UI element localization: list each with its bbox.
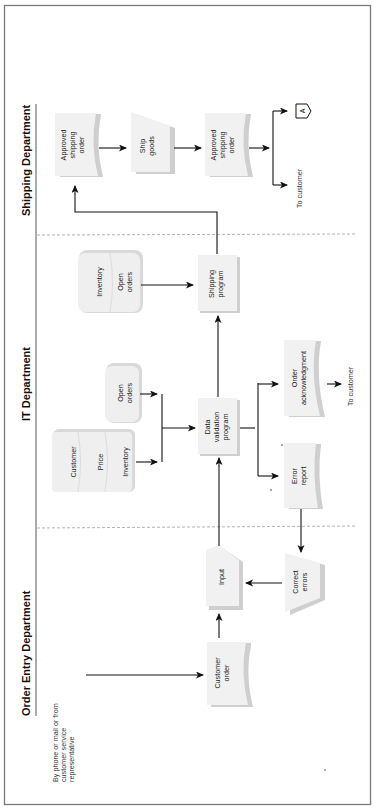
node-error-report: Error report xyxy=(284,443,323,509)
db-inventory-2: Inventory xyxy=(95,267,104,297)
svg-text:order: order xyxy=(77,136,86,153)
svg-text:Approved: Approved xyxy=(59,130,68,161)
svg-text:Customer: Customer xyxy=(213,657,222,689)
svg-text:Error: Error xyxy=(290,467,299,484)
svg-text:Shipping: Shipping xyxy=(207,270,216,298)
db-open-orders-2-line2: orders xyxy=(125,271,134,292)
svg-text:Data: Data xyxy=(203,419,212,434)
node-customer-order: Customer order xyxy=(207,642,253,707)
svg-text:shipping: shipping xyxy=(68,132,77,159)
svg-text:order: order xyxy=(222,664,231,681)
svg-text:orders: orders xyxy=(125,382,134,403)
svg-text:Correct: Correct xyxy=(291,570,300,594)
scan-speck xyxy=(270,489,272,491)
lane-header-shipping: Shipping Department xyxy=(20,104,32,216)
node-approved-shipping-order-1: Approved shipping order xyxy=(55,113,103,177)
svg-text:Open: Open xyxy=(116,384,125,402)
scan-speck xyxy=(281,444,283,446)
svg-text:Input: Input xyxy=(217,569,226,585)
svg-text:shipping: shipping xyxy=(218,132,227,159)
db-inventory: Inventory xyxy=(121,447,130,477)
to-customer-ship-label: To customer xyxy=(295,168,304,208)
svg-text:acknowledgment: acknowledgment xyxy=(299,351,308,405)
svg-text:representative: representative xyxy=(67,736,76,782)
lane-header-order-entry: Order Entry Department xyxy=(20,590,32,716)
svg-text:Approved: Approved xyxy=(209,130,218,161)
node-shipping-program: Shipping program xyxy=(198,255,240,313)
svg-text:Order: Order xyxy=(290,368,299,387)
db-open-orders-2-line1: Open xyxy=(116,273,125,291)
node-approved-shipping-order-2: Approved shipping order xyxy=(205,113,253,177)
node-order-acknowledgment: Order acknowledgment xyxy=(284,340,325,417)
off-page-connector-a: A xyxy=(296,104,311,118)
svg-text:goods: goods xyxy=(147,136,156,156)
scan-speck xyxy=(324,769,326,771)
connector-label: A xyxy=(299,108,306,113)
svg-text:errors: errors xyxy=(300,572,309,591)
svg-text:program: program xyxy=(221,414,230,441)
flowchart-canvas: Shipping Department IT Department Order … xyxy=(0,0,375,809)
svg-text:validation: validation xyxy=(212,412,221,442)
svg-text:report: report xyxy=(299,467,308,486)
db-customer: Customer xyxy=(69,446,78,478)
db-customer-price-inventory: Customer Price Inventory xyxy=(52,429,135,492)
svg-text:order: order xyxy=(227,136,236,153)
db-price: Price xyxy=(96,454,105,470)
to-customer-ack-label: To customer xyxy=(346,366,355,406)
lane-header-it: IT Department xyxy=(20,347,32,421)
db-open-orders: Open orders xyxy=(105,363,142,423)
svg-text:Ship: Ship xyxy=(138,139,147,153)
node-data-validation-program: Data validation program xyxy=(198,398,240,456)
svg-text:program: program xyxy=(216,271,225,298)
db-inventory-open-orders: Inventory Open orders xyxy=(78,250,143,313)
